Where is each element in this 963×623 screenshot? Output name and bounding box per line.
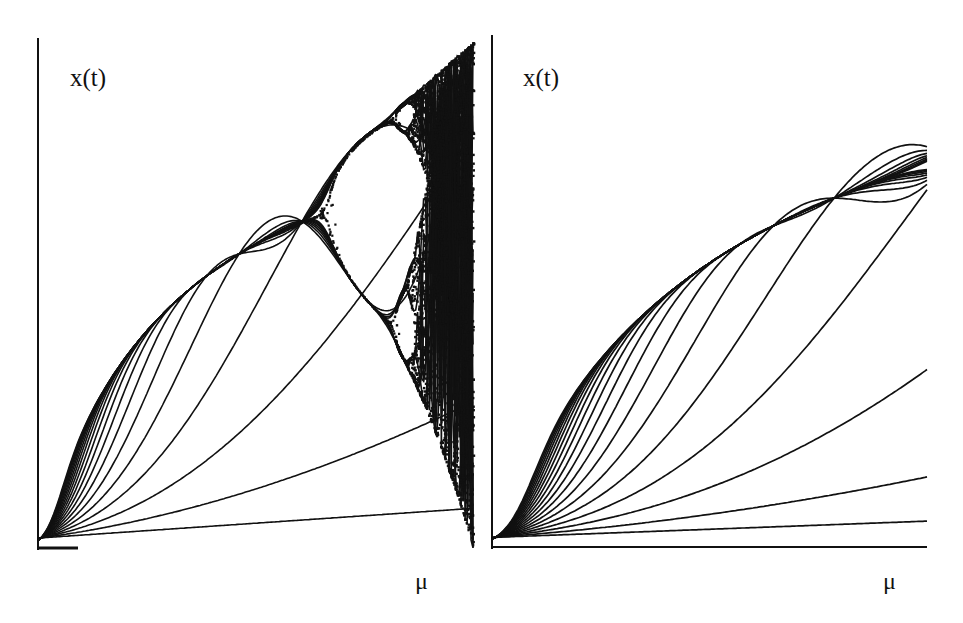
- right-curve: [492, 180, 927, 538]
- left-x-axis-label: μ: [415, 568, 428, 595]
- right-curve: [492, 170, 927, 540]
- left-curve: [38, 44, 473, 548]
- left-y-axis-label: x(t): [70, 64, 106, 92]
- right-plot-canvas: [480, 0, 963, 623]
- left-plot: x(t) μ: [0, 0, 480, 623]
- left-curve: [38, 83, 473, 546]
- left-curve: [38, 132, 473, 538]
- left-curve: [38, 402, 473, 539]
- right-x-axis-label: μ: [883, 568, 896, 595]
- left-curve: [38, 508, 473, 538]
- left-curve: [38, 125, 473, 539]
- right-curve: [492, 184, 927, 538]
- right-curve: [492, 190, 927, 538]
- left-curve: [38, 94, 473, 539]
- right-curve: [492, 173, 927, 539]
- right-curve: [492, 160, 927, 539]
- right-curve: [492, 161, 927, 539]
- right-curve: [492, 172, 927, 539]
- left-curve: [38, 52, 473, 540]
- right-curve: [492, 170, 927, 539]
- left-plot-canvas: [0, 0, 480, 623]
- right-plot: x(t) μ: [480, 0, 963, 623]
- right-curve: [492, 177, 927, 538]
- right-curve: [492, 175, 927, 539]
- right-curve: [492, 145, 927, 538]
- right-y-axis-label: x(t): [523, 64, 559, 92]
